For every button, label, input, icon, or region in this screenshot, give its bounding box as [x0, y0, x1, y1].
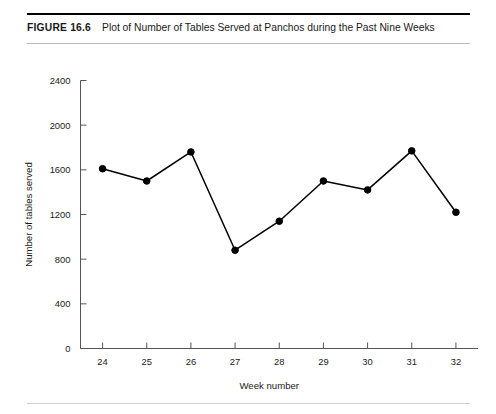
x-tick-label: 24 [97, 356, 107, 367]
data-point [364, 187, 371, 194]
axis-titles: Week numberNumber of tables served [23, 162, 300, 390]
data-point [276, 218, 283, 225]
y-tick-label: 1600 [50, 164, 71, 175]
y-tick-label: 2000 [50, 120, 71, 131]
data-point [143, 178, 150, 185]
chart-canvas: 04008001200160020002400 2425262728293031… [0, 0, 496, 414]
x-tick-label: 28 [274, 356, 284, 367]
x-axis-title: Week number [239, 380, 299, 391]
x-tick-label: 32 [451, 356, 461, 367]
x-axis: 242526272829303132 [81, 343, 479, 367]
x-tick-label: 26 [186, 356, 196, 367]
y-axis-title: Number of tables served [23, 162, 34, 267]
y-axis: 04008001200160020002400 [50, 75, 87, 354]
x-tick-label: 29 [318, 356, 328, 367]
data-point [99, 165, 106, 172]
y-tick-label: 1200 [50, 209, 71, 220]
y-tick-label: 2400 [50, 75, 71, 86]
footer-rule [27, 403, 470, 404]
x-tick-label: 31 [407, 356, 417, 367]
y-tick-label: 400 [55, 298, 71, 309]
data-series [99, 148, 459, 254]
data-point [188, 149, 195, 156]
x-tick-label: 27 [230, 356, 240, 367]
y-tick-label: 800 [55, 254, 71, 265]
x-tick-label: 30 [362, 356, 372, 367]
data-point [453, 209, 460, 216]
data-point [232, 247, 239, 254]
line-chart: 04008001200160020002400 2425262728293031… [0, 0, 496, 414]
data-point [408, 148, 415, 155]
x-tick-label: 25 [142, 356, 152, 367]
data-point [320, 178, 327, 185]
y-tick-label: 0 [65, 343, 70, 354]
